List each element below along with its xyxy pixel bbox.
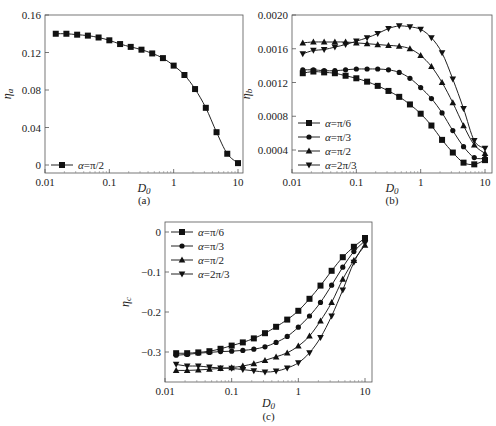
legend-label: α=2π/3 [325, 159, 357, 171]
circle-marker [407, 76, 412, 81]
y-tick-label: 0.16 [22, 9, 42, 21]
square-marker [284, 317, 290, 323]
circle-marker [482, 156, 487, 161]
series-line [303, 26, 485, 148]
square-marker [96, 35, 102, 41]
square-marker [364, 79, 370, 85]
square-marker [295, 308, 301, 314]
square-marker [450, 150, 456, 156]
circle-marker [329, 283, 334, 288]
triangle-down-marker [299, 51, 306, 57]
chart-c: 0.010.1110−0.3−0.2−0.10D0ηc(c)α=π/6α=π/3… [118, 222, 372, 423]
circle-marker [174, 353, 179, 358]
legend-label: α=π/2 [198, 254, 224, 266]
triangle-up-marker [328, 299, 335, 305]
square-marker [214, 129, 220, 135]
triangle-up-marker [339, 276, 346, 282]
y-axis-label: ηa [0, 88, 15, 99]
square-marker [262, 330, 268, 336]
x-tick-label: 10 [360, 385, 372, 397]
square-marker [74, 32, 80, 38]
series-square [53, 31, 241, 166]
circle-marker [354, 66, 359, 71]
square-marker [63, 31, 69, 37]
triangle-down-marker [317, 335, 324, 341]
y-tick-label: 0.0012 [258, 77, 288, 89]
circle-marker [229, 349, 234, 354]
square-marker [106, 37, 112, 43]
square-marker [224, 151, 230, 157]
circle-marker [351, 249, 356, 254]
x-tick-label: 1 [418, 176, 424, 188]
square-marker [203, 105, 209, 111]
square-marker [439, 137, 445, 143]
square-marker [385, 88, 391, 94]
y-axis-label: ηc [118, 297, 133, 307]
square-marker [160, 55, 166, 61]
x-tick-label: 1 [296, 385, 302, 397]
square-marker [85, 33, 91, 39]
y-tick-label: 0.04 [22, 122, 42, 134]
y-axis-label: ηb [239, 88, 254, 99]
square-marker [181, 72, 187, 78]
y-tick-label: −0.2 [141, 306, 161, 318]
triangle-down-marker [439, 50, 446, 56]
x-tick-label: 10 [233, 176, 245, 188]
square-marker [171, 63, 177, 69]
square-marker [329, 268, 335, 274]
triangle-up-marker [417, 52, 424, 58]
triangle-down-marker [339, 287, 346, 293]
series-line [56, 34, 238, 163]
y-tick-label: 0.0020 [258, 9, 289, 21]
circle-marker [318, 300, 323, 305]
legend-label: α=π/6 [198, 226, 225, 238]
y-tick-label: 0.0016 [258, 43, 289, 55]
square-marker [317, 283, 323, 289]
square-marker [235, 160, 241, 166]
circle-marker [251, 347, 256, 352]
square-marker [418, 111, 424, 117]
y-tick-label: 0.0004 [258, 144, 289, 156]
y-tick-label: 0.08 [22, 84, 42, 96]
square-marker [306, 296, 312, 302]
x-tick-label: 0.1 [102, 176, 116, 188]
circle-marker [306, 134, 311, 139]
y-tick-label: −0.1 [141, 266, 161, 278]
square-marker [251, 335, 257, 341]
x-axis-label: D0 [261, 396, 276, 411]
triangle-up-marker [460, 122, 467, 128]
x-tick-label: 1 [171, 176, 177, 188]
circle-marker [332, 68, 337, 73]
square-marker [138, 47, 144, 53]
square-marker [375, 83, 381, 89]
plot-frame [45, 15, 243, 173]
legend-label: α=π/6 [325, 117, 352, 129]
square-marker [53, 31, 59, 37]
square-marker [192, 86, 198, 92]
circle-marker [296, 325, 301, 330]
square-marker [229, 343, 235, 349]
triangle-up-marker [439, 79, 446, 85]
chart-b: 0.010.11100.00040.00080.00120.00160.0020… [239, 9, 492, 207]
x-tick-label: 0.01 [35, 176, 54, 188]
circle-marker [179, 243, 184, 248]
triangle-down-marker [328, 313, 335, 319]
circle-marker [262, 344, 267, 349]
circle-marker [196, 351, 201, 356]
square-marker [149, 50, 155, 56]
circle-marker [375, 66, 380, 71]
y-tick-label: 0 [156, 226, 162, 238]
square-marker [353, 75, 359, 81]
triangle-up-marker [295, 343, 302, 349]
triangle-down-marker [374, 31, 381, 37]
y-tick-label: 0 [36, 159, 42, 171]
legend-label: α=π/3 [325, 131, 352, 143]
square-marker [240, 339, 246, 345]
circle-marker [450, 128, 455, 133]
triangle-up-marker [450, 99, 457, 105]
circle-marker [307, 313, 312, 318]
circle-marker [207, 350, 212, 355]
circle-marker [340, 265, 345, 270]
legend: α=π/2 [51, 159, 104, 171]
circle-marker [218, 349, 223, 354]
